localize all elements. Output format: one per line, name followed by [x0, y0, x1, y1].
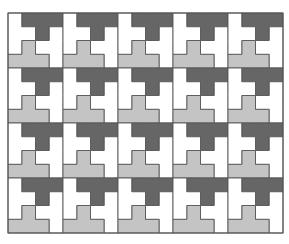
tile: [228, 13, 283, 68]
tile: [8, 123, 63, 178]
tile: [228, 123, 283, 178]
tile: [118, 13, 173, 68]
tile: [118, 68, 173, 123]
t-tetromino-tiling: [0, 0, 289, 244]
tile: [228, 178, 283, 233]
tile: [63, 13, 118, 68]
tile: [8, 178, 63, 233]
tile: [63, 123, 118, 178]
tile: [63, 178, 118, 233]
tile: [173, 123, 228, 178]
tile: [8, 68, 63, 123]
tile: [118, 178, 173, 233]
tile: [118, 123, 173, 178]
tile: [173, 68, 228, 123]
tile-grid: [8, 13, 283, 233]
tile: [228, 68, 283, 123]
tile: [173, 13, 228, 68]
tile: [8, 13, 63, 68]
tile: [173, 178, 228, 233]
tile: [63, 68, 118, 123]
